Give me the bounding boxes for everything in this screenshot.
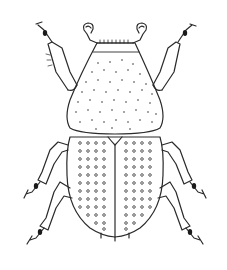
antennae	[84, 23, 147, 43]
beetle-drawing	[0, 0, 227, 270]
middle-right-leg	[162, 142, 206, 198]
right-elytron-rows	[125, 142, 152, 231]
hind-left-leg	[27, 182, 72, 244]
front-left-leg	[36, 22, 77, 90]
pronotum-punctures	[75, 59, 157, 130]
middle-left-leg	[24, 142, 68, 198]
left-elytron-rows	[79, 142, 106, 231]
elytra	[67, 137, 163, 241]
hind-right-leg	[158, 182, 203, 244]
pronotum	[67, 43, 163, 134]
front-right-leg	[153, 24, 196, 90]
beetle-illustration: beetle line drawing, dorsal view	[0, 0, 227, 270]
